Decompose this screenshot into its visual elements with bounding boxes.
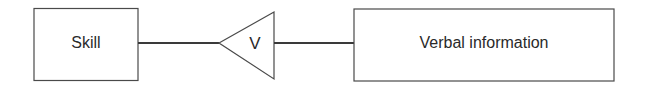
relation-label: V [249,34,261,53]
verbal-information-label: Verbal information [420,34,549,51]
skill-verbal-diagram: Skill V Verbal information [0,0,646,85]
node-skill: Skill [34,9,138,81]
node-relation: V [219,12,274,79]
skill-label: Skill [71,34,100,51]
node-verbal-information: Verbal information [354,9,614,81]
relation-triangle [219,12,274,79]
